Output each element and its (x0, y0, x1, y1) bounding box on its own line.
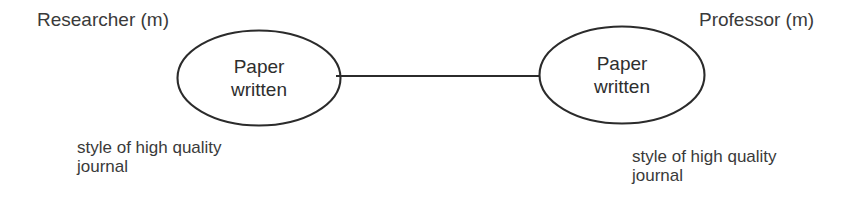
role-caption-professor: style of high quality journal (632, 147, 777, 185)
role-caption-researcher: style of high quality journal (77, 138, 222, 176)
ellipse-outline-icon (538, 25, 706, 125)
connector-line-icon (336, 74, 544, 78)
role-ellipse-professor[interactable]: Paper written (538, 25, 706, 125)
diagram-canvas: Researcher (m) Professor (m) Paper writt… (0, 0, 858, 201)
entity-header-researcher: Researcher (m) (37, 9, 169, 31)
ellipse-outline-icon (176, 29, 342, 127)
role-ellipse-researcher[interactable]: Paper written (176, 29, 342, 127)
relationship-connector-line[interactable] (336, 74, 544, 78)
entity-header-professor: Professor (m) (699, 9, 814, 31)
